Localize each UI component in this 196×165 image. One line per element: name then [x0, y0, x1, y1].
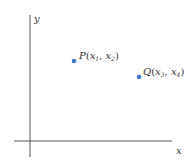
point-p-marker	[72, 59, 77, 64]
point-q-marker	[137, 75, 142, 80]
x-axis-label: x	[176, 145, 182, 156]
point-q-label: Q(x3, x4)	[143, 66, 184, 78]
point-p-label: P(x1, x2)	[78, 50, 119, 62]
coordinate-plane: y x P(x1, x2) Q(x3, x4)	[0, 0, 196, 165]
y-axis-label: y	[33, 13, 40, 24]
